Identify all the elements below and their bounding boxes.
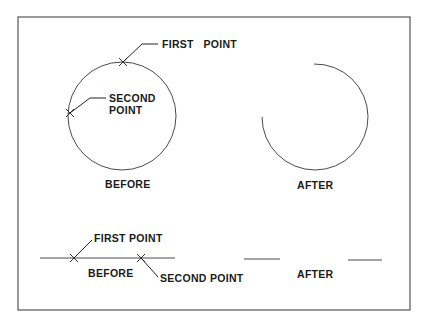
line-first-point-label: FIRST POINT (94, 232, 163, 244)
line-first-point-leader (74, 240, 92, 258)
line-second-point-leader (141, 258, 158, 277)
second-point-label-line2: POINT (109, 104, 143, 116)
line-before-caption: BEFORE (88, 267, 134, 279)
second-point-leader (70, 98, 106, 113)
diagram-frame (18, 17, 410, 310)
first-point-leader (123, 44, 158, 62)
break-command-diagram: FIRST POINT SECOND POINT BEFORE AFTER FI… (0, 0, 429, 324)
circle-after-caption: AFTER (297, 179, 334, 191)
full-circle (68, 62, 176, 170)
line-before-group: FIRST POINT SECOND POINT BEFORE (40, 232, 244, 284)
line-second-point-label: SECOND POINT (160, 272, 244, 284)
line-after-group: AFTER (244, 259, 382, 280)
broken-arc (262, 64, 368, 170)
first-point-label: FIRST POINT (162, 38, 237, 50)
circle-before-group: FIRST POINT SECOND POINT BEFORE (66, 38, 237, 190)
second-point-label-line1: SECOND (109, 92, 156, 104)
line-after-caption: AFTER (297, 268, 334, 280)
circle-after-group: AFTER (262, 64, 368, 191)
circle-before-caption: BEFORE (105, 178, 151, 190)
